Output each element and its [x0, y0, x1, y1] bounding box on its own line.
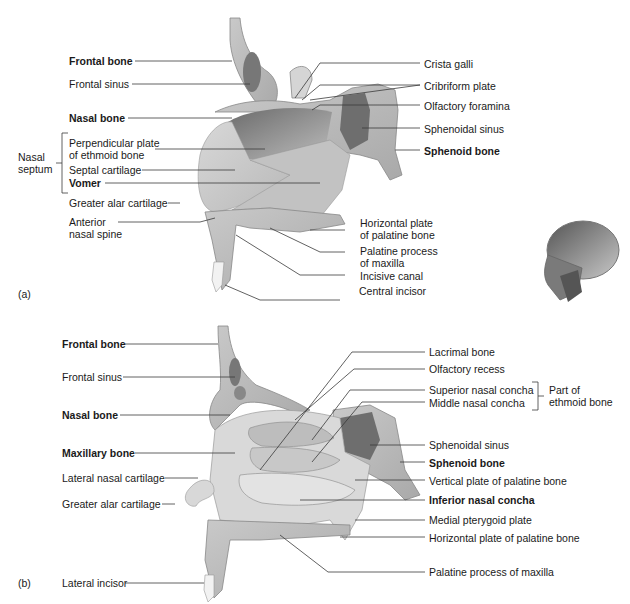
label-a-anterior-nasal-spine: Anterior nasal spine	[69, 216, 122, 240]
label-a-olfactory-foramina: Olfactory foramina	[424, 100, 510, 112]
label-a-perpendicular-plate: Perpendicular plate of ethmoid bone	[69, 137, 159, 161]
label-a-sphenoidal-sinus: Sphenoidal sinus	[424, 123, 504, 135]
label-b-horizontal-plate: Horizontal plate of palatine bone	[429, 532, 580, 544]
label-b-olfactory-recess: Olfactory recess	[429, 363, 505, 375]
label-b-nasal-bone: Nasal bone	[62, 409, 118, 421]
label-b-sphenoidal-sinus: Sphenoidal sinus	[429, 439, 509, 451]
label-a-crista-galli: Crista galli	[424, 58, 473, 70]
diagram-artwork	[0, 0, 630, 604]
label-a-frontal-bone: Frontal bone	[69, 55, 133, 67]
label-a-palatine-process: Palatine process of maxilla	[360, 245, 438, 269]
skull-orientation-icon	[545, 221, 619, 302]
label-b-inferior-nasal-concha: Inferior nasal concha	[429, 494, 535, 506]
label-b-middle-nasal-concha: Middle nasal concha	[429, 397, 525, 409]
label-a-cribriform-plate: Cribriform plate	[424, 80, 496, 92]
label-a-horizontal-plate: Horizontal plate of palatine bone	[360, 217, 435, 241]
label-b-ethmoid-group: Part of ethmoid bone	[549, 384, 613, 408]
panel-a-tag: (a)	[18, 288, 31, 300]
label-b-frontal-sinus: Frontal sinus	[62, 371, 122, 383]
label-a-nasal-septum-group: Nasal septum	[18, 151, 52, 175]
label-b-palatine-process: Palatine process of maxilla	[429, 566, 554, 578]
label-b-lacrimal-bone: Lacrimal bone	[429, 346, 495, 358]
label-b-medial-pterygoid-plate: Medial pterygoid plate	[429, 514, 532, 526]
label-a-vomer: Vomer	[69, 177, 101, 189]
label-b-lateral-incisor: Lateral incisor	[62, 577, 127, 589]
panel-b-illustration	[185, 326, 420, 602]
label-a-incisive-canal: Incisive canal	[360, 270, 423, 282]
label-b-maxillary-bone: Maxillary bone	[62, 447, 135, 459]
label-b-superior-nasal-concha: Superior nasal concha	[429, 384, 533, 396]
label-b-frontal-bone: Frontal bone	[62, 338, 126, 350]
label-a-sphenoid-bone: Sphenoid bone	[424, 145, 500, 157]
label-a-greater-alar-cartilage: Greater alar cartilage	[69, 197, 168, 209]
label-a-septal-cartilage: Septal cartilage	[69, 164, 141, 176]
label-b-sphenoid-bone: Sphenoid bone	[429, 457, 505, 469]
label-a-frontal-sinus: Frontal sinus	[69, 78, 129, 90]
label-b-lateral-nasal-cartilage: Lateral nasal cartilage	[62, 472, 165, 484]
label-b-greater-alar-cartilage: Greater alar cartilage	[62, 498, 161, 510]
label-a-nasal-bone: Nasal bone	[69, 112, 125, 124]
label-b-vertical-plate: Vertical plate of palatine bone	[429, 475, 567, 487]
label-a-central-incisor: Central incisor	[359, 285, 426, 297]
panel-b-tag: (b)	[18, 577, 31, 589]
